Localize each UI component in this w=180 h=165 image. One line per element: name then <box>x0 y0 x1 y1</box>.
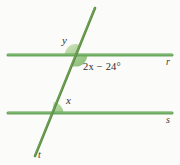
line-r <box>8 54 172 55</box>
line-label-r: r <box>166 57 170 67</box>
geometry-diagram-canvas <box>0 0 180 165</box>
angle-label-y: y <box>62 35 67 46</box>
geometry-figure: y x 2x − 24° r s t <box>0 0 180 165</box>
line-label-s: s <box>166 115 170 125</box>
angle-label-expression: 2x − 24° <box>83 62 121 73</box>
line-t-transversal <box>35 8 95 156</box>
line-s <box>8 112 172 113</box>
line-label-t: t <box>38 150 41 160</box>
angle-label-x: x <box>66 95 71 106</box>
